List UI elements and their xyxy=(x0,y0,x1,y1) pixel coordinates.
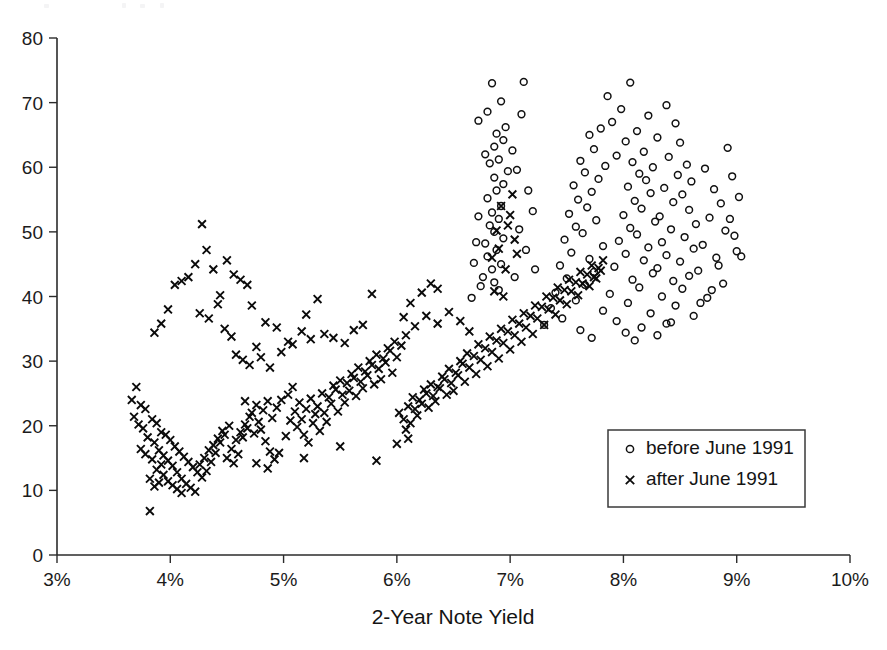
data-point-cross xyxy=(443,391,451,399)
data-point-cross xyxy=(169,462,177,470)
data-point-cross xyxy=(214,300,222,308)
data-point-cross xyxy=(538,303,546,311)
data-point-circle xyxy=(631,337,638,344)
data-point-cross xyxy=(205,315,213,323)
data-point-cross xyxy=(200,454,208,462)
data-point-cross xyxy=(597,267,605,275)
data-point-circle xyxy=(638,324,645,331)
data-point-cross xyxy=(273,404,281,412)
data-point-cross xyxy=(128,396,136,404)
data-point-circle xyxy=(688,178,695,185)
data-point-circle xyxy=(604,93,611,100)
data-point-circle xyxy=(649,164,656,171)
data-point-cross xyxy=(411,322,419,330)
data-point-circle xyxy=(514,166,521,173)
data-point-cross xyxy=(459,360,467,368)
data-point-circle xyxy=(722,227,729,234)
data-point-circle xyxy=(484,108,491,115)
data-point-cross xyxy=(237,276,245,284)
data-point-circle xyxy=(597,125,604,132)
data-point-cross xyxy=(284,391,292,399)
data-point-circle xyxy=(704,294,711,301)
data-point-circle xyxy=(731,232,738,239)
data-point-cross xyxy=(173,468,181,476)
plot-canvas: 01020304050607080 3%4%5%6%7%8%9%10% befo… xyxy=(0,0,887,650)
data-point-cross xyxy=(561,286,569,294)
data-point-cross xyxy=(513,250,521,258)
legend-label-after[interactable]: after June 1991 xyxy=(646,468,778,489)
data-point-cross xyxy=(309,419,317,427)
data-point-circle xyxy=(480,274,487,281)
data-point-cross xyxy=(336,377,344,385)
data-point-circle xyxy=(708,287,715,294)
data-point-cross xyxy=(223,454,231,462)
data-point-cross xyxy=(151,439,159,447)
data-point-circle xyxy=(491,174,498,181)
data-point-cross xyxy=(533,315,541,323)
data-point-circle xyxy=(717,200,724,207)
data-point-circle xyxy=(529,208,536,215)
data-point-cross xyxy=(511,331,519,339)
data-point-cross xyxy=(225,422,233,430)
data-point-cross xyxy=(586,282,594,290)
data-point-cross xyxy=(411,405,419,413)
data-point-circle xyxy=(489,209,496,216)
data-point-circle xyxy=(557,262,564,269)
data-point-cross xyxy=(241,397,249,405)
data-point-cross xyxy=(567,287,575,295)
data-point-circle xyxy=(695,267,702,274)
data-point-circle xyxy=(495,216,502,223)
data-point-cross xyxy=(427,280,435,288)
x-tick-label: 5% xyxy=(270,569,298,590)
y-tick-label: 60 xyxy=(22,157,43,178)
data-point-cross xyxy=(391,338,399,346)
data-point-circle xyxy=(493,130,500,137)
data-point-cross xyxy=(157,461,165,469)
data-point-cross xyxy=(395,409,403,417)
data-point-circle xyxy=(532,266,539,273)
data-point-cross xyxy=(293,423,301,431)
data-point-circle xyxy=(629,276,636,283)
data-point-cross xyxy=(289,383,297,391)
data-point-circle xyxy=(672,120,679,127)
data-point-circle xyxy=(622,250,629,257)
data-point-cross xyxy=(246,361,254,369)
data-point-cross xyxy=(397,342,405,350)
data-point-cross xyxy=(572,278,580,286)
data-point-circle xyxy=(665,154,672,161)
chart-legend[interactable]: before June 1991after June 1991 xyxy=(608,430,805,507)
data-point-circle xyxy=(713,254,720,261)
data-point-cross xyxy=(552,311,560,319)
data-point-cross xyxy=(252,343,260,351)
data-point-circle xyxy=(586,256,593,263)
y-tick-label: 50 xyxy=(22,222,43,243)
data-point-cross xyxy=(484,362,492,370)
data-point-circle xyxy=(670,278,677,285)
data-point-cross xyxy=(506,346,514,354)
data-point-circle xyxy=(625,183,632,190)
data-point-circle xyxy=(643,177,650,184)
legend-label-before[interactable]: before June 1991 xyxy=(646,437,794,458)
data-point-circle xyxy=(647,190,654,197)
data-point-circle xyxy=(616,238,623,245)
data-point-cross xyxy=(151,483,159,491)
data-point-circle xyxy=(498,98,505,105)
data-point-circle xyxy=(663,102,670,109)
data-point-circle xyxy=(663,320,670,327)
data-point-cross xyxy=(302,311,310,319)
data-point-cross xyxy=(252,459,260,467)
data-point-circle xyxy=(475,213,482,220)
data-point-cross xyxy=(352,392,360,400)
data-point-circle xyxy=(486,160,493,167)
y-tick-label: 0 xyxy=(32,545,43,566)
data-point-cross xyxy=(488,254,496,262)
data-point-circle xyxy=(561,236,568,243)
data-point-cross xyxy=(243,281,251,289)
data-point-circle xyxy=(470,259,477,266)
data-point-cross xyxy=(209,441,217,449)
data-point-cross xyxy=(151,329,159,337)
data-point-circle xyxy=(572,223,579,230)
data-point-cross xyxy=(477,356,485,364)
data-point-cross xyxy=(504,222,512,230)
x-tick-label: 4% xyxy=(157,569,185,590)
